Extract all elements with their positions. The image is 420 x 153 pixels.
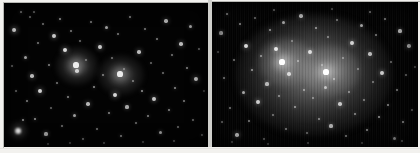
sky-background-right <box>212 2 418 147</box>
figure-root <box>0 0 420 153</box>
panel-row <box>0 0 420 153</box>
image-panel-right[interactable] <box>212 2 418 147</box>
image-panel-left[interactable] <box>4 3 208 147</box>
sky-background-left <box>4 3 208 147</box>
